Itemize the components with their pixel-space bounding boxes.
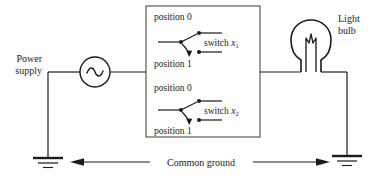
switch-2-name-sub: 2 (235, 110, 238, 117)
common-ground-arrow-left (70, 158, 84, 166)
circuit-diagram-svg: Power supply position 0 switch x1 positi… (0, 0, 371, 179)
power-supply-label-line1: Power (16, 53, 42, 64)
switch-2-position-1-label: position 1 (154, 126, 192, 136)
light-bulb-label-line1: Light (338, 13, 360, 24)
switch-1-lever (181, 34, 197, 42)
switch-2-name-prefix: switch (204, 106, 231, 116)
switch-1-position-1-label: position 1 (154, 59, 192, 69)
switch-1-name-sub: 1 (235, 42, 238, 49)
switch-1-position-0-label: position 0 (154, 12, 192, 22)
switch-2-throw-arrowhead (186, 119, 192, 126)
switch-box-outline (146, 6, 260, 137)
ground-symbol-left (33, 158, 63, 168)
light-bulb-label-line2: bulb (338, 25, 356, 36)
common-ground-arrow-right (316, 158, 330, 166)
common-ground-label: Common ground (167, 157, 235, 168)
switch-2-position-0-label: position 0 (154, 83, 192, 93)
switch-1-name-prefix: switch (204, 38, 231, 48)
switch-2-lever (181, 102, 197, 110)
power-supply-label-line2: supply (15, 65, 42, 76)
ground-symbol-right (332, 156, 362, 166)
switch-2-name: switch x2 (204, 106, 239, 118)
switch-1-throw-arrowhead (186, 51, 192, 58)
bulb-filament-icon (306, 34, 316, 47)
circuit-diagram-canvas: Power supply position 0 switch x1 positi… (0, 0, 371, 179)
sine-wave-icon (87, 68, 103, 76)
light-bulb-icon (291, 20, 331, 72)
switch-1-name: switch x1 (204, 38, 239, 50)
